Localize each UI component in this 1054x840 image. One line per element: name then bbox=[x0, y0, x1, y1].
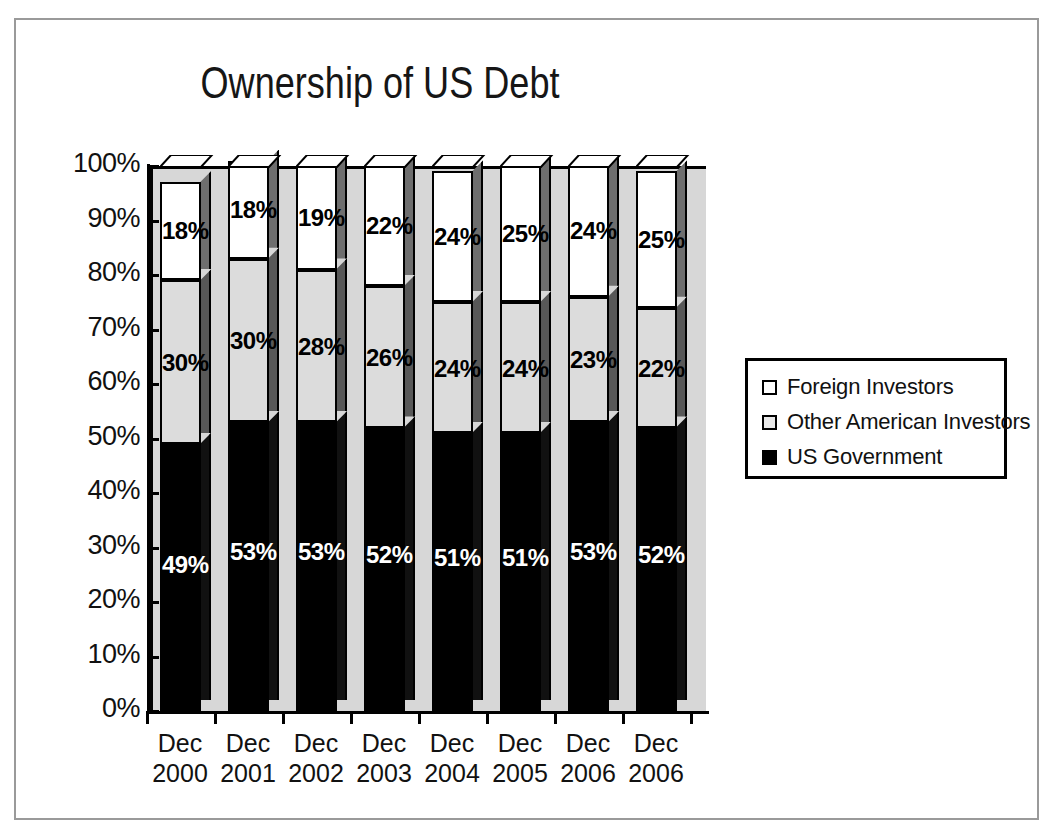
bar-segment-label: 25% bbox=[502, 220, 557, 248]
x-axis-tick-mark bbox=[690, 711, 693, 724]
legend-swatch-icon bbox=[762, 380, 777, 395]
bar-segment-label: 53% bbox=[298, 538, 353, 566]
x-axis-tick-mark bbox=[282, 711, 285, 724]
x-axis-tick-mark bbox=[554, 711, 557, 724]
bar-segment-label: 52% bbox=[366, 541, 421, 569]
chart-title: Ownership of US Debt bbox=[68, 58, 691, 108]
bar-top-cap bbox=[296, 155, 348, 168]
legend-item[interactable]: US Government bbox=[762, 440, 1004, 474]
x-axis-label-year: 2004 bbox=[418, 758, 486, 788]
bar-segment-label: 30% bbox=[230, 327, 285, 355]
x-axis-label-year: 2000 bbox=[146, 758, 214, 788]
y-axis-tick-label: 50% bbox=[30, 421, 140, 452]
bar-segment bbox=[636, 428, 677, 711]
x-axis-tick-label: Dec2004 bbox=[418, 728, 486, 788]
x-axis-tick-label: Dec2000 bbox=[146, 728, 214, 788]
bar-segment-label: 53% bbox=[570, 538, 625, 566]
legend-swatch-icon bbox=[762, 450, 777, 465]
x-axis-tick-mark bbox=[214, 711, 217, 724]
y-axis-tick-label: 0% bbox=[30, 693, 140, 724]
y-axis: 100%90%80%70%60%50%40%30%20%10%0% bbox=[14, 0, 140, 840]
x-axis-tick-mark bbox=[622, 711, 625, 724]
legend-item[interactable]: Foreign Investors bbox=[762, 370, 1004, 404]
x-axis-label-month: Dec bbox=[282, 728, 350, 758]
x-axis-label-month: Dec bbox=[418, 728, 486, 758]
bar-segment-label: 24% bbox=[502, 355, 557, 383]
x-axis-label-month: Dec bbox=[486, 728, 554, 758]
y-axis-tick-label: 90% bbox=[30, 203, 140, 234]
bar-segment bbox=[228, 422, 269, 711]
y-axis-tick-label: 60% bbox=[30, 366, 140, 397]
y-axis-tick-label: 30% bbox=[30, 530, 140, 561]
legend-label: US Government bbox=[787, 444, 942, 470]
x-axis-label-month: Dec bbox=[146, 728, 214, 758]
x-axis-tick-label: Dec2005 bbox=[486, 728, 554, 788]
x-axis-tick-label: Dec2006 bbox=[554, 728, 622, 788]
bar-segment-label: 26% bbox=[366, 344, 421, 372]
bar-segment-label: 24% bbox=[434, 223, 489, 251]
bar-segment-label: 51% bbox=[434, 544, 489, 572]
bar-segment-label: 22% bbox=[366, 212, 421, 240]
bar-segment-label: 18% bbox=[162, 217, 217, 245]
bar-segment-label: 52% bbox=[638, 541, 693, 569]
bar-segment-label: 30% bbox=[162, 349, 217, 377]
bar-top-cap bbox=[432, 155, 484, 168]
bar-top-cap bbox=[160, 155, 212, 168]
x-axis-label-year: 2006 bbox=[622, 758, 690, 788]
legend-label: Other American Investors bbox=[787, 409, 1030, 435]
x-axis-tick-label: Dec2003 bbox=[350, 728, 418, 788]
bar-top-cap bbox=[636, 155, 688, 168]
bar-segment-label: 51% bbox=[502, 544, 557, 572]
bar-top-cap bbox=[568, 155, 620, 168]
x-axis-tick-label: Dec2002 bbox=[282, 728, 350, 788]
x-axis-tick-label: Dec2001 bbox=[214, 728, 282, 788]
x-axis-label-month: Dec bbox=[622, 728, 690, 758]
bar-segment-label: 18% bbox=[230, 196, 285, 224]
x-axis-label-year: 2003 bbox=[350, 758, 418, 788]
bar-segment-label: 23% bbox=[570, 346, 625, 374]
bar-segment-label: 49% bbox=[162, 551, 217, 579]
x-axis-tick-mark bbox=[486, 711, 489, 724]
bar-top-cap bbox=[364, 155, 416, 168]
chart-legend: Foreign InvestorsOther American Investor… bbox=[745, 358, 1007, 479]
x-axis-tick-mark bbox=[146, 711, 149, 724]
bar-segment-label: 24% bbox=[570, 217, 625, 245]
bar-segment-label: 24% bbox=[434, 355, 489, 383]
x-axis-label-year: 2001 bbox=[214, 758, 282, 788]
y-axis-tick-label: 70% bbox=[30, 312, 140, 343]
legend-item[interactable]: Other American Investors bbox=[762, 405, 1004, 439]
x-axis-label-year: 2002 bbox=[282, 758, 350, 788]
bar-segment-label: 28% bbox=[298, 333, 353, 361]
bar-segment bbox=[364, 428, 405, 711]
y-axis-tick-label: 20% bbox=[30, 584, 140, 615]
legend-swatch-icon bbox=[762, 415, 777, 430]
bar-top-cap bbox=[500, 155, 552, 168]
bar-segment-label: 25% bbox=[638, 226, 693, 254]
bar-segment-label: 22% bbox=[638, 355, 693, 383]
chart-page: Ownership of US Debt 100%90%80%70%60%50%… bbox=[0, 0, 1054, 840]
legend-label: Foreign Investors bbox=[787, 374, 954, 400]
y-axis-tick-label: 10% bbox=[30, 639, 140, 670]
x-axis-tick-mark bbox=[418, 711, 421, 724]
bar-segment-label: 53% bbox=[230, 538, 285, 566]
x-axis-label-year: 2006 bbox=[554, 758, 622, 788]
y-axis-tick-label: 80% bbox=[30, 257, 140, 288]
x-axis-label-month: Dec bbox=[350, 728, 418, 758]
x-axis-label-month: Dec bbox=[554, 728, 622, 758]
bar-top-cap bbox=[228, 155, 280, 168]
x-axis-tick-label: Dec2006 bbox=[622, 728, 690, 788]
y-axis-tick-label: 40% bbox=[30, 475, 140, 506]
y-axis-tick-label: 100% bbox=[30, 148, 140, 179]
x-axis-label-year: 2005 bbox=[486, 758, 554, 788]
x-axis-tick-mark bbox=[350, 711, 353, 724]
y-axis-line bbox=[147, 164, 150, 714]
bar-segment-label: 19% bbox=[298, 204, 353, 232]
x-axis-label-month: Dec bbox=[214, 728, 282, 758]
bar-segment bbox=[296, 422, 337, 711]
bar-segment bbox=[568, 422, 609, 711]
